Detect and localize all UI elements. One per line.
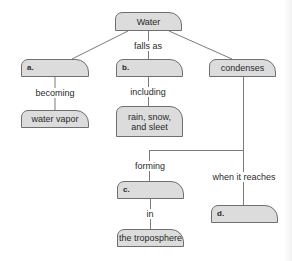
- node-troposphere-label: the troposphere: [119, 233, 182, 243]
- node-rain-snow-sleet: rain, snow, and sleet: [116, 106, 183, 137]
- node-rain-line1: rain, snow,: [128, 112, 171, 122]
- link-label-becoming: becoming: [34, 88, 75, 98]
- node-water: Water: [115, 12, 182, 31]
- node-condenses: condenses: [209, 59, 276, 77]
- node-water-label: Water: [137, 17, 161, 27]
- link-label-when-it-reaches: when it reaches: [211, 172, 276, 182]
- node-d-blank[interactable]: d.: [211, 205, 278, 223]
- node-troposphere: the troposphere: [117, 229, 184, 247]
- link-label-including: including: [129, 87, 167, 97]
- link-water-a: [72, 31, 128, 59]
- link-label-forming: forming: [134, 161, 166, 171]
- node-c-blank[interactable]: c.: [117, 181, 184, 199]
- node-a-blank[interactable]: a.: [21, 59, 89, 77]
- node-water-vapor: water vapor: [21, 110, 89, 128]
- node-condenses-label: condenses: [221, 63, 265, 73]
- node-b-label: b.: [122, 63, 129, 73]
- node-b-blank[interactable]: b.: [116, 59, 183, 77]
- node-water-vapor-label: water vapor: [31, 114, 78, 124]
- node-c-label: c.: [123, 185, 130, 195]
- node-d-label: d.: [217, 209, 224, 219]
- node-a-label: a.: [27, 63, 34, 73]
- link-label-in: in: [145, 209, 154, 219]
- link-label-falls-as: falls as: [133, 41, 163, 51]
- link-water-condenses: [169, 31, 232, 59]
- node-rain-line2: and sleet: [131, 122, 168, 132]
